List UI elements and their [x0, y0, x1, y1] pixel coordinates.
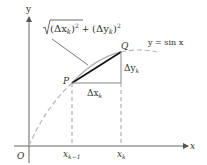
svg-text:(Δxk)2 + (Δyk)2: (Δxk)2 + (Δyk)2 — [50, 22, 121, 36]
tick-label-xk-minus-1: xk−1 — [63, 149, 81, 160]
point-q-label: Q — [121, 41, 129, 51]
x-axis-label: x — [190, 141, 195, 151]
chord-pq — [72, 52, 121, 83]
curve-label: y = sin x — [147, 38, 184, 47]
delta-y-label: Δyk — [124, 63, 140, 74]
origin-label: O — [17, 151, 25, 161]
formula-pointer — [52, 39, 88, 65]
point-p-label: P — [62, 76, 70, 86]
delta-x-label: Δxk — [87, 88, 103, 99]
y-axis-label: y — [25, 4, 32, 14]
sine-curve-dashed-left — [29, 83, 72, 146]
chord-length-formula: (Δxk)2 + (Δyk)2 — [43, 20, 121, 36]
arc-length-diagram: (Δxk)2 + (Δyk)2 y x O P Q y = sin x Δyk … — [0, 0, 207, 165]
tick-label-xk: xk — [117, 149, 126, 160]
